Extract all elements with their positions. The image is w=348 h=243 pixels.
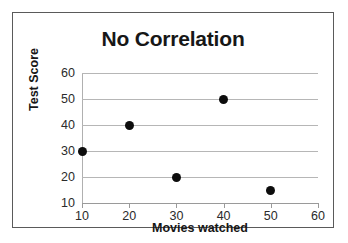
x-tick-label-50: 50 xyxy=(264,209,278,223)
data-point xyxy=(125,121,134,130)
x-tick-mark-10 xyxy=(82,203,83,208)
y-axis-title: Test Score xyxy=(27,48,41,111)
x-tick-mark-40 xyxy=(224,203,225,208)
gridline-y-20 xyxy=(82,177,318,178)
plot-area: 102030405060 102030405060 xyxy=(82,73,318,203)
x-tick-label-20: 20 xyxy=(122,209,136,223)
x-tick-mark-30 xyxy=(176,203,177,208)
chart-title: No Correlation xyxy=(13,27,333,51)
y-tick-label-10: 10 xyxy=(61,196,75,210)
x-tick-label-30: 30 xyxy=(169,209,183,223)
y-tick-label-20: 20 xyxy=(61,170,75,184)
x-tick-label-10: 10 xyxy=(75,209,89,223)
x-tick-mark-60 xyxy=(318,203,319,208)
y-tick-label-40: 40 xyxy=(61,118,75,132)
data-point xyxy=(172,173,181,182)
chart-frame: No Correlation Test Score Movies watched… xyxy=(12,12,334,228)
x-tick-mark-20 xyxy=(129,203,130,208)
data-point xyxy=(266,186,275,195)
y-axis-line xyxy=(82,73,83,203)
y-tick-label-50: 50 xyxy=(61,92,75,106)
x-tick-mark-50 xyxy=(271,203,272,208)
gridline-y-40 xyxy=(82,125,318,126)
gridline-y-50 xyxy=(82,99,318,100)
data-point xyxy=(219,95,228,104)
gridline-y-10 xyxy=(82,203,318,204)
gridline-y-30 xyxy=(82,151,318,152)
y-tick-label-30: 30 xyxy=(61,144,75,158)
x-axis-title: Movies watched xyxy=(82,221,318,235)
y-tick-label-60: 60 xyxy=(61,66,75,80)
x-tick-label-60: 60 xyxy=(311,209,325,223)
x-tick-label-40: 40 xyxy=(217,209,231,223)
data-point xyxy=(78,147,87,156)
gridline-y-60 xyxy=(82,73,318,74)
